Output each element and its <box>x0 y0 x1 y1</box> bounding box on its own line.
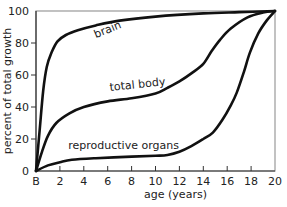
curve-label-reproductive-organs: reproductive organs <box>68 139 179 152</box>
x-tick-label: 14 <box>196 175 210 188</box>
x-tick-label: 10 <box>149 175 163 188</box>
curve-label-total-body: total body <box>109 75 166 94</box>
x-axis-label: age (years) <box>144 188 207 201</box>
x-tick-label: 2 <box>56 175 63 188</box>
x-tick-label: 8 <box>128 175 135 188</box>
x-tick-label: 20 <box>268 175 282 188</box>
x-tick-label: 4 <box>80 175 87 188</box>
x-tick-label: 6 <box>104 175 111 188</box>
x-tick-label: 16 <box>220 175 234 188</box>
curve-label-brain: brain <box>92 18 123 41</box>
x-tick-label: 12 <box>172 175 186 188</box>
y-tick-label: 80 <box>15 37 29 50</box>
y-tick-label: 60 <box>15 69 29 82</box>
growth-chart: B2468101214161820020406080100 braintotal… <box>0 0 287 207</box>
x-tick-label: B <box>32 175 40 188</box>
y-tick-label: 40 <box>15 101 29 114</box>
x-tick-label: 18 <box>244 175 258 188</box>
y-tick-label: 20 <box>15 133 29 146</box>
y-axis-label: percent of total growth <box>1 28 14 155</box>
y-tick-label: 100 <box>8 5 29 18</box>
y-tick-label: 0 <box>22 165 29 178</box>
